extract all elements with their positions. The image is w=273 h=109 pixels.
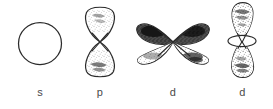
s-sphere-outline xyxy=(19,23,62,65)
orbital-d-dz2: d xyxy=(212,0,273,109)
d-lobe-upper-left-shading xyxy=(134,20,176,46)
p-lobe-upper-stipple xyxy=(88,10,114,32)
orbital-label-d-dz2: d xyxy=(212,87,273,98)
orbital-label-p: p xyxy=(68,87,132,98)
orbital-label-d-cloverleaf: d xyxy=(128,87,218,98)
d-lobe-lower-left-shading xyxy=(134,42,176,70)
orbital-d-cloverleaf: d xyxy=(128,0,218,109)
orbital-p: p xyxy=(68,0,132,109)
orbital-shapes-figure: s xyxy=(0,0,273,109)
d-lobe-lower-right-shading xyxy=(170,42,214,70)
d-lobe-upper-right-shading xyxy=(170,20,214,46)
